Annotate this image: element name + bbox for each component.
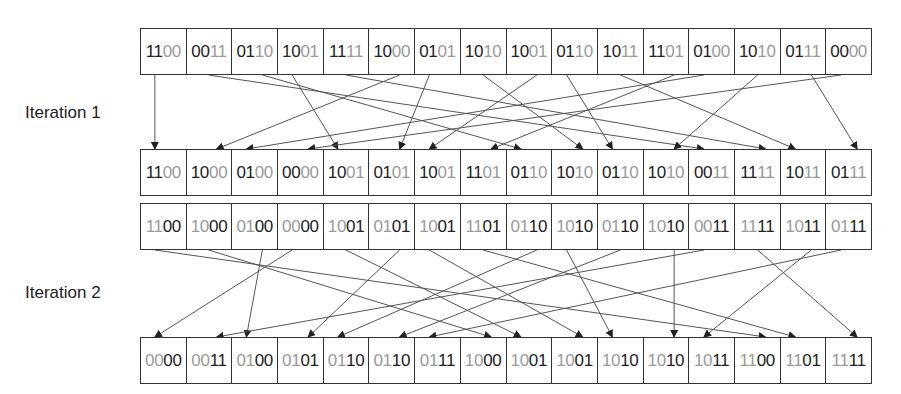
mapping-arrow [155, 250, 292, 337]
binary-cell: 1001 [278, 29, 324, 74]
iteration2-input-row: 1100100001000000100101011001110101101010… [140, 203, 872, 250]
binary-cell: 0000 [141, 338, 187, 383]
binary-cell: 1001 [507, 29, 553, 74]
mapping-arrow [811, 75, 857, 149]
binary-cell: 1111 [324, 29, 370, 74]
mapping-arrow [483, 250, 795, 337]
binary-cell: 1100 [141, 29, 187, 74]
binary-cell: 0011 [689, 150, 735, 195]
binary-cell: 0110 [598, 150, 644, 195]
binary-cell: 0110 [324, 338, 370, 383]
binary-cell: 0110 [598, 204, 644, 249]
mapping-arrow [217, 250, 704, 337]
binary-cell: 1100 [735, 338, 781, 383]
mapping-arrow [209, 250, 492, 337]
binary-cell: 0100 [232, 338, 278, 383]
mapping-arrow [308, 75, 841, 149]
binary-cell: 1111 [735, 204, 781, 249]
binary-cell: 1010 [644, 204, 690, 249]
binary-cell: 1001 [415, 204, 461, 249]
binary-cell: 0101 [415, 29, 461, 74]
output-row: 0000001101000101011001100111100010011001… [140, 337, 872, 384]
mapping-arrow [674, 75, 758, 149]
binary-cell: 1010 [552, 150, 598, 195]
binary-cell: 1011 [689, 338, 735, 383]
binary-cell: 0011 [187, 338, 233, 383]
binary-cell: 1011 [781, 204, 827, 249]
after-iteration1-row: 1100100001000000100101011001110101101010… [140, 149, 872, 196]
mapping-arrow [400, 75, 430, 149]
binary-cell: 1010 [735, 29, 781, 74]
mapping-arrow [308, 250, 400, 337]
binary-cell: 1001 [324, 204, 370, 249]
binary-cell: 0110 [232, 29, 278, 74]
binary-cell: 0100 [689, 29, 735, 74]
mapping-arrow [567, 250, 613, 337]
binary-cell: 1101 [781, 338, 827, 383]
binary-cell: 1000 [461, 338, 507, 383]
binary-cell: 1100 [141, 150, 187, 195]
binary-cell: 0000 [826, 29, 871, 74]
binary-cell: 0110 [507, 204, 553, 249]
mapping-arrow [346, 75, 766, 149]
input-row: 1100001101101001111110000101101010010110… [140, 28, 872, 75]
binary-cell: 1001 [324, 150, 370, 195]
mapping-arrow [209, 75, 704, 149]
mapping-arrow [429, 250, 841, 337]
binary-cell: 1000 [187, 150, 233, 195]
binary-cell: 1001 [507, 338, 553, 383]
binary-cell: 0000 [278, 204, 324, 249]
mapping-arrow [483, 75, 583, 149]
binary-cell: 0110 [507, 150, 553, 195]
binary-cell: 0011 [689, 204, 735, 249]
binary-cell: 1010 [644, 150, 690, 195]
binary-cell: 1010 [461, 29, 507, 74]
binary-cell: 1011 [598, 29, 644, 74]
binary-cell: 0100 [232, 204, 278, 249]
mapping-arrow [217, 75, 400, 149]
binary-cell: 1011 [781, 150, 827, 195]
binary-cell: 0101 [369, 150, 415, 195]
binary-cell: 0101 [369, 204, 415, 249]
binary-cell: 1101 [461, 204, 507, 249]
binary-cell: 1101 [461, 150, 507, 195]
binary-cell: 0000 [278, 150, 324, 195]
binary-cell: 0011 [187, 29, 233, 74]
binary-cell: 1010 [644, 338, 690, 383]
binary-cell: 0111 [826, 204, 871, 249]
mapping-arrow [338, 250, 537, 337]
binary-cell: 0111 [826, 150, 871, 195]
binary-cell: 1101 [644, 29, 690, 74]
binary-cell: 1111 [735, 150, 781, 195]
binary-cell: 0111 [781, 29, 827, 74]
binary-cell: 1010 [598, 338, 644, 383]
binary-cell: 0111 [415, 338, 461, 383]
mapping-arrow [704, 250, 812, 337]
mapping-arrow [491, 75, 674, 149]
binary-cell: 0100 [232, 150, 278, 195]
binary-cell: 0110 [552, 29, 598, 74]
binary-cell: 1000 [369, 29, 415, 74]
binary-cell: 1111 [826, 338, 871, 383]
binary-cell: 0101 [278, 338, 324, 383]
binary-cell: 0110 [369, 338, 415, 383]
binary-cell: 1000 [187, 204, 233, 249]
binary-cell: 1001 [552, 338, 598, 383]
binary-cell: 1100 [141, 204, 187, 249]
binary-cell: 1010 [552, 204, 598, 249]
mapping-arrow [758, 250, 858, 337]
binary-cell: 1001 [415, 150, 461, 195]
